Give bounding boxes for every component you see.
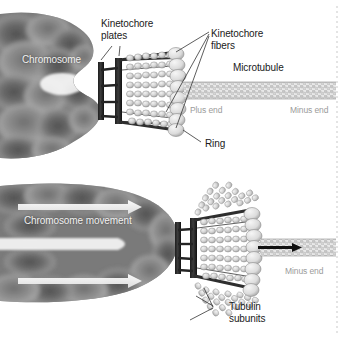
kinetochore-fibers-label-line2: fibers [211, 40, 235, 52]
chromosome-label: Chromosome [22, 54, 81, 66]
minus-end-label-bottom: Minus end [285, 266, 323, 276]
chromosome-movement-label: Chromosome movement [24, 215, 132, 227]
microtubule-label: Microtubule [233, 62, 284, 74]
tubulin-subunits-label-line1: Tubulin [229, 301, 261, 313]
minus-end-label-top: Minus end [290, 105, 328, 115]
ring-label: Ring [205, 138, 225, 150]
kinetochore-fibers-label-line1: Kinetochore [211, 28, 263, 40]
diagram-canvas [0, 0, 358, 343]
tubulin-subunits-label-line2: subunits [229, 313, 265, 325]
kinetochore-plates-label-line1: Kinetochore [101, 18, 153, 30]
kinetochore-plates-label-line2: plates [101, 30, 127, 42]
plus-end-label: Plus end [190, 105, 222, 115]
microtubule-top [184, 82, 336, 99]
kinetochore-diagram-figure: Chromosome Kinetochore plates Kinetochor… [0, 0, 358, 343]
